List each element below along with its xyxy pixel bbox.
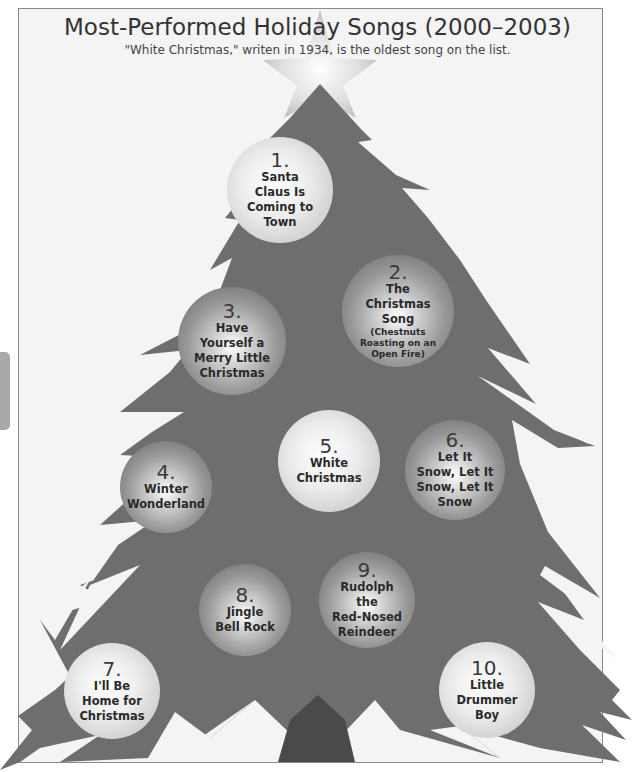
rank-number: 1. <box>270 150 289 170</box>
rank-number: 3. <box>222 301 241 321</box>
chart-title: Most-Performed Holiday Songs (2000–2003) <box>0 14 635 40</box>
song-title: Winter Wonderland <box>127 482 205 512</box>
song-title: Rudolph the Red-Nosed Reindeer <box>332 580 402 640</box>
ornament-rank-3: 3. Have Yourself a Merry Little Christma… <box>178 287 286 395</box>
song-title: Little Drummer Boy <box>457 678 518 723</box>
song-subtitle: (Chestnuts Roasting on an Open Fire) <box>360 327 436 360</box>
rank-number: 2. <box>388 262 407 282</box>
rank-number: 9. <box>357 560 376 580</box>
song-title: The Christmas Song <box>365 282 430 327</box>
ornament-rank-4: 4. Winter Wonderland <box>120 441 212 533</box>
rank-number: 8. <box>235 585 254 605</box>
ornament-rank-5: 5. White Christmas <box>278 410 380 512</box>
ornament-rank-1: 1. Santa Claus Is Coming to Town <box>227 137 333 243</box>
ornament-rank-7: 7. I'll Be Home for Christmas <box>64 643 160 739</box>
song-title: I'll Be Home for Christmas <box>79 679 144 724</box>
song-title: Santa Claus Is Coming to Town <box>247 170 313 230</box>
song-title: Have Yourself a Merry Little Christmas <box>194 321 270 381</box>
ornament-rank-2: 2. The Christmas Song (Chestnuts Roastin… <box>342 255 454 367</box>
rank-number: 10. <box>471 658 503 678</box>
ornament-rank-9: 9. Rudolph the Red-Nosed Reindeer <box>319 552 415 648</box>
rank-number: 4. <box>156 462 175 482</box>
song-title: Jingle Bell Rock <box>215 605 275 635</box>
ornament-rank-10: 10. Little Drummer Boy <box>439 642 535 738</box>
rank-number: 5. <box>319 436 338 456</box>
rank-number: 7. <box>102 659 121 679</box>
rank-number: 6. <box>445 430 464 450</box>
song-title: White Christmas <box>296 456 361 486</box>
ornament-rank-6: 6. Let It Snow, Let It Snow, Let It Snow <box>405 420 505 520</box>
song-title: Let It Snow, Let It Snow, Let It Snow <box>416 450 493 510</box>
ornament-rank-8: 8. Jingle Bell Rock <box>199 564 291 656</box>
chart-subtitle: "White Christmas," writen in 1934, is th… <box>0 43 635 57</box>
